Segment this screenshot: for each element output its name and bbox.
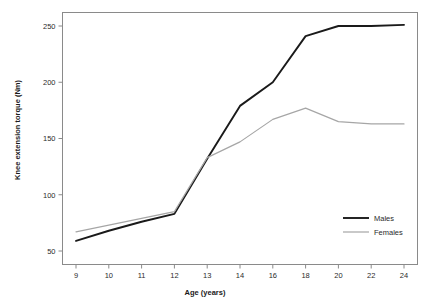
y-tick-label: 100 <box>43 191 56 200</box>
x-tick-label: 11 <box>138 271 146 280</box>
legend-label-males: Males <box>374 214 394 223</box>
y-tick-label: 250 <box>43 22 56 31</box>
x-tick-label: 20 <box>334 271 342 280</box>
x-tick-label: 16 <box>269 271 277 280</box>
x-tick-label: 24 <box>400 271 408 280</box>
chart-background <box>0 0 428 305</box>
x-tick-label: 12 <box>170 271 178 280</box>
x-axis-title: Age (years) <box>185 288 226 297</box>
legend-label-females: Females <box>374 228 403 237</box>
x-tick-label: 14 <box>236 271 244 280</box>
y-tick-label: 50 <box>47 247 55 256</box>
line-chart: 50100150200250 910111213141618202224 Kne… <box>0 0 428 305</box>
x-tick-label: 18 <box>301 271 309 280</box>
y-tick-label: 200 <box>43 78 56 87</box>
x-tick-label: 9 <box>74 271 78 280</box>
x-tick-label: 22 <box>367 271 375 280</box>
chart-figure: 50100150200250 910111213141618202224 Kne… <box>0 0 428 305</box>
y-axis-title: Knee extension torque (Nm) <box>13 79 22 180</box>
x-tick-label: 13 <box>203 271 211 280</box>
x-tick-label: 10 <box>105 271 113 280</box>
y-tick-label: 150 <box>43 134 56 143</box>
